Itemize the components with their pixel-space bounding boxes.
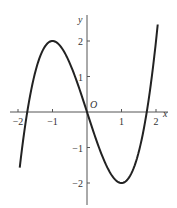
x-tick-label: 2 <box>154 116 159 127</box>
x-axis-label: x <box>162 108 168 119</box>
cubic-function-graph: −2−11221−1−2 x y O <box>0 0 177 208</box>
y-tick-label: −2 <box>72 178 83 189</box>
origin-label: O <box>90 99 97 110</box>
y-tick-label: 2 <box>78 36 83 47</box>
x-tick-label: −1 <box>47 116 58 127</box>
y-tick-label: 1 <box>78 72 83 83</box>
cubic-curve <box>20 24 158 182</box>
x-tick-label: 1 <box>119 116 124 127</box>
y-axis-label: y <box>77 14 83 25</box>
x-tick-label: −2 <box>13 116 24 127</box>
axes <box>10 15 168 205</box>
y-tick-label: −1 <box>72 143 83 154</box>
